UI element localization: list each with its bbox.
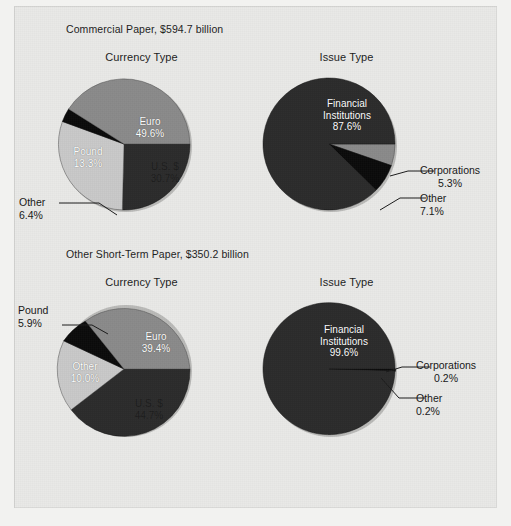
label-ost-iss-other-name: Other	[416, 392, 442, 404]
label-ost-other-name: Other	[72, 361, 97, 372]
pie-slice-financial-institutions	[263, 303, 395, 435]
label-ost-financial-pct: 99.6%	[330, 347, 358, 358]
label-ost-cur-pound: Pound 5.9%	[18, 304, 48, 329]
label-ost-euro-pct: 39.4%	[142, 343, 170, 354]
label-cp-euro: Euro 49.6%	[120, 116, 180, 139]
figure-panel: Commercial Paper, $594.7 billion Currenc…	[14, 6, 497, 508]
label-cp-euro-pct: 49.6%	[136, 128, 164, 139]
label-cp-cur-other: Other 6.4%	[19, 196, 45, 221]
label-cp-financial-name2: Institutions	[323, 110, 371, 121]
label-ost-iss-other-pct: 0.2%	[416, 405, 440, 417]
pie-svg-ost-issue	[256, 296, 402, 442]
label-ost-iss-corporations-name: Corporations	[416, 359, 476, 371]
label-cp-usd-pct: 30.7%	[151, 173, 179, 184]
label-cp-usd-name: U.S. $	[151, 161, 179, 172]
label-ost-usd: U.S. $ 44.7%	[118, 398, 180, 421]
section-title-other-short-term-paper: Other Short-Term Paper, $350.2 billion	[66, 248, 249, 260]
label-cp-pound-name: Pound	[74, 146, 103, 157]
label-cp-financial-pct: 87.6%	[333, 121, 361, 132]
label-cp-iss-corporations-name: Corporations	[420, 164, 480, 176]
subtitle-cp-issue-type: Issue Type	[269, 51, 424, 63]
label-cp-iss-corporations: Corporations 5.3%	[420, 164, 480, 189]
label-ost-euro: Euro 39.4%	[126, 331, 186, 354]
label-ost-usd-pct: 44.7%	[135, 410, 163, 421]
label-ost-iss-other: Other 0.2%	[416, 392, 442, 417]
label-cp-iss-other-name: Other	[420, 192, 446, 204]
subtitle-ost-issue-type: Issue Type	[269, 276, 424, 288]
label-ost-usd-name: U.S. $	[135, 398, 163, 409]
subtitle-ost-currency-type: Currency Type	[64, 276, 219, 288]
label-ost-financial-name1: Financial	[324, 324, 364, 335]
section-title-commercial-paper: Commercial Paper, $594.7 billion	[66, 23, 223, 35]
pie-chart-ost-issue	[256, 296, 402, 442]
label-ost-euro-name: Euro	[145, 331, 166, 342]
label-ost-cur-pound-pct: 5.9%	[18, 317, 42, 329]
subtitle-cp-currency-type: Currency Type	[64, 51, 219, 63]
label-ost-other-pct: 10.0%	[71, 373, 99, 384]
label-cp-usd: U.S. $ 30.7%	[134, 161, 196, 184]
label-cp-euro-name: Euro	[139, 116, 160, 127]
label-ost-cur-pound-name: Pound	[18, 304, 48, 316]
label-cp-financial-name1: Financial	[327, 98, 367, 109]
leader-line-cp-other	[59, 196, 121, 218]
label-ost-other: Other 10.0%	[56, 361, 114, 384]
label-cp-pound-pct: 13.3%	[74, 158, 102, 169]
label-cp-iss-corporations-pct: 5.3%	[420, 177, 480, 190]
label-cp-iss-other-pct: 7.1%	[420, 205, 444, 217]
label-cp-cur-other-name: Other	[19, 196, 45, 208]
leader-line-ost-pound	[62, 321, 110, 337]
label-ost-financial-name2: Institutions	[320, 336, 368, 347]
label-ost-financial: Financial Institutions 99.6%	[299, 324, 389, 359]
label-cp-financial: Financial Institutions 87.6%	[302, 98, 392, 133]
label-cp-iss-other: Other 7.1%	[420, 192, 446, 217]
label-cp-pound: Pound 13.3%	[59, 146, 117, 169]
label-cp-cur-other-pct: 6.4%	[19, 209, 43, 221]
